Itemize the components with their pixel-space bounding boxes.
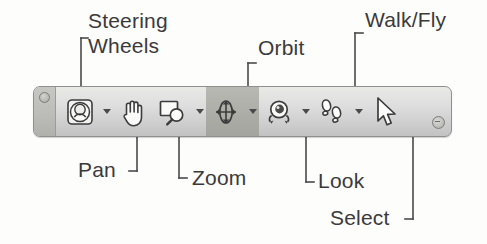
annotation-zoom: Zoom	[192, 166, 246, 190]
diagram-canvas: Steering Wheels Orbit Walk/Fly Pan Zoom …	[0, 0, 487, 244]
select-cursor-icon	[370, 95, 400, 129]
steering-wheels-icon	[65, 97, 95, 127]
toolbar-items	[56, 87, 451, 136]
chevron-down-icon	[302, 109, 310, 114]
look-button[interactable]	[259, 91, 299, 133]
annotation-look: Look	[318, 169, 364, 193]
steering-wheels-dropdown[interactable]	[100, 91, 113, 133]
annotation-steering-wheels: Steering Wheels	[88, 8, 168, 58]
orbit-button[interactable]	[206, 86, 246, 137]
toolbar-spacer	[405, 111, 425, 112]
orbit-icon	[210, 96, 242, 128]
chevron-down-icon	[103, 109, 111, 114]
chevron-down-icon	[196, 109, 204, 114]
zoom-dropdown[interactable]	[193, 91, 206, 133]
walk-fly-button[interactable]	[312, 91, 352, 133]
steering-wheels-button[interactable]	[60, 91, 100, 133]
zoom-magnifier-icon	[157, 97, 189, 127]
annotation-pan: Pan	[78, 158, 116, 182]
grip-dot-icon	[39, 92, 50, 103]
walk-fly-dropdown[interactable]	[352, 91, 365, 133]
chevron-down-icon	[249, 109, 257, 114]
look-eye-icon	[263, 96, 295, 128]
toolbar-options-button[interactable]	[425, 87, 451, 136]
annotation-select: Select	[330, 206, 390, 230]
look-dropdown[interactable]	[299, 91, 312, 133]
select-button[interactable]	[365, 91, 405, 133]
pan-button[interactable]	[113, 91, 153, 133]
chevron-down-icon	[355, 109, 363, 114]
toolbar-grip-handle[interactable]	[34, 87, 56, 136]
annotation-orbit: Orbit	[258, 36, 305, 60]
options-dot-icon	[432, 116, 445, 129]
pan-hand-icon	[118, 96, 148, 128]
annotation-walk-fly: Walk/Fly	[365, 8, 446, 32]
zoom-button[interactable]	[153, 91, 193, 133]
navigation-toolbar	[33, 86, 452, 137]
walk-fly-footprints-icon	[316, 96, 348, 128]
orbit-dropdown[interactable]	[246, 86, 259, 137]
